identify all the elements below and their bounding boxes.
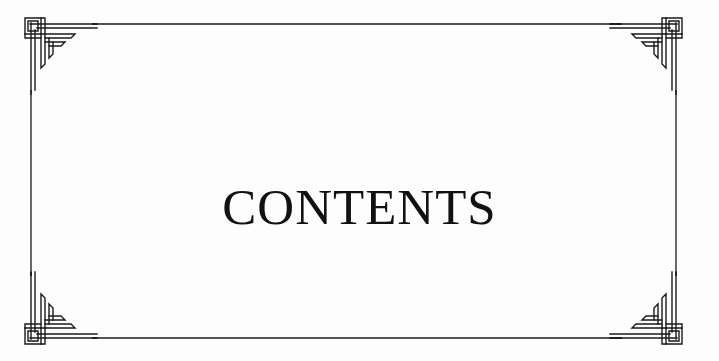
bottom-left-ornament <box>25 272 97 344</box>
bottom-right-ornament <box>610 272 682 344</box>
page-title: CONTENTS <box>0 177 719 237</box>
contents-page: CONTENTS <box>0 0 719 361</box>
top-right-ornament <box>610 18 682 90</box>
top-left-ornament <box>25 18 97 90</box>
